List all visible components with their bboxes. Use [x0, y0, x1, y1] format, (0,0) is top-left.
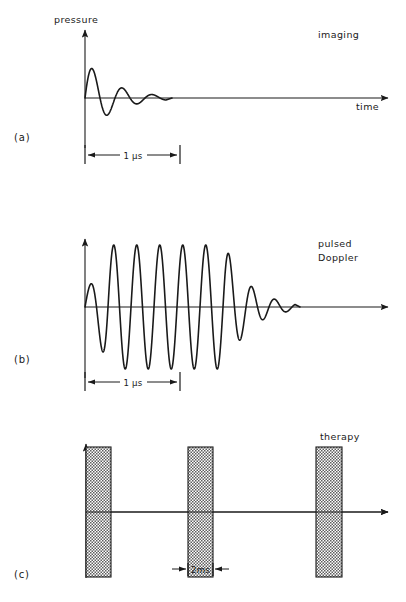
panel-a-x-axis-label: time: [356, 101, 379, 112]
panel-c-width-label: 2ms: [191, 565, 210, 575]
panel-b-duration-dimension: 1 µs: [85, 372, 180, 391]
panel-a: pressure time imaging (a) 1 µs: [14, 14, 388, 164]
panel-c-annotation-therapy: therapy: [320, 431, 360, 442]
figure-canvas: pressure time imaging (a) 1 µs pulsed Do…: [0, 0, 406, 602]
panel-c-label: (c): [14, 569, 30, 580]
panel-a-annotation-imaging: imaging: [318, 29, 359, 40]
panel-a-label: (a): [14, 132, 30, 143]
panel-b-annotation-line-2: Doppler: [318, 252, 358, 263]
panel-a-duration-label: 1 µs: [124, 151, 143, 161]
panel-b: pulsed Doppler (b) 1 µs: [14, 238, 388, 391]
panel-b-label: (b): [14, 354, 31, 365]
panel-a-duration-dimension: 1 µs: [85, 145, 180, 164]
pressure-waveform-figure: pressure time imaging (a) 1 µs pulsed Do…: [0, 0, 406, 602]
panel-a-waveform-trace: [85, 69, 172, 116]
panel-b-annotation-line-1: pulsed: [318, 238, 352, 249]
panel-c: therapy (c) 2ms: [14, 431, 388, 580]
panel-c-width-dimension: 2ms: [172, 563, 229, 576]
panel-a-y-axis-label: pressure: [54, 14, 98, 25]
panel-b-duration-label: 1 µs: [124, 378, 143, 388]
